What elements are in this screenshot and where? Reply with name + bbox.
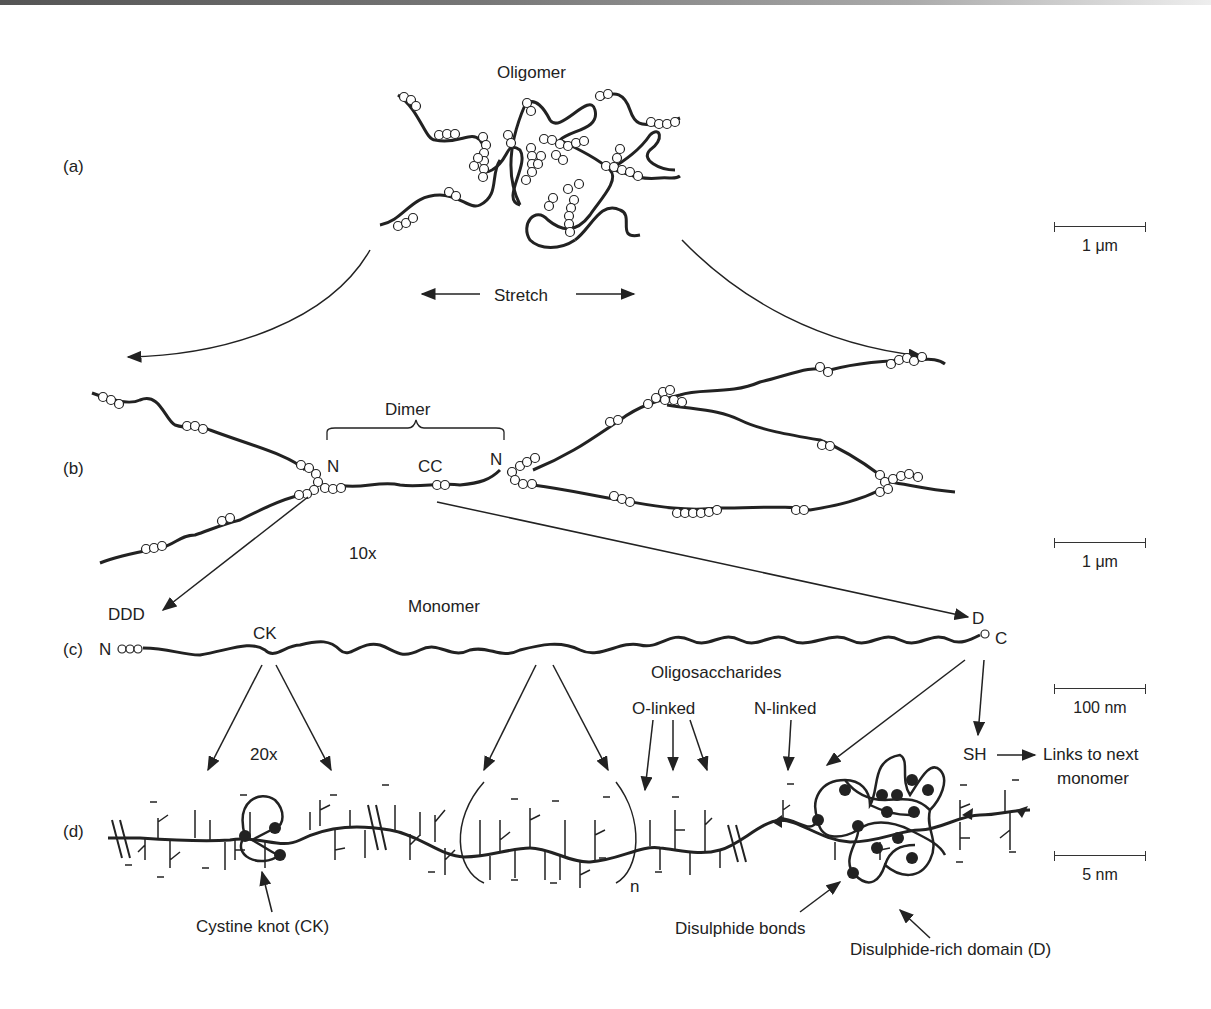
panel-label-c: (c) bbox=[63, 641, 83, 658]
zoom-arrows-b-c bbox=[163, 497, 968, 617]
ddd-label: DDD bbox=[108, 606, 145, 623]
stretch-label: Stretch bbox=[494, 287, 548, 304]
cystine-knot-arrow bbox=[262, 872, 272, 912]
magnification-20x: 20x bbox=[250, 746, 277, 763]
disulphide-domain-arrow bbox=[900, 910, 930, 938]
zoom-arrows-c-d bbox=[208, 660, 1035, 790]
dimer-cc: CC bbox=[418, 458, 443, 475]
chain-break-marks bbox=[112, 805, 746, 862]
mucin-structure-diagram bbox=[0, 0, 1211, 1009]
panel-label-d: (d) bbox=[63, 823, 84, 840]
ck-label: CK bbox=[253, 625, 277, 642]
dimer-title: Dimer bbox=[385, 401, 430, 418]
disulphide-rich-domain bbox=[780, 755, 945, 882]
scale-bar-d: 5 nm bbox=[1054, 851, 1146, 884]
links-label-line2: monomer bbox=[1057, 770, 1129, 787]
cystine-knot-label: Cystine knot (CK) bbox=[196, 918, 329, 935]
monomer-title: Monomer bbox=[408, 598, 480, 615]
links-label-line1: Links to next bbox=[1043, 746, 1138, 763]
scale-value-c: 100 nm bbox=[1054, 699, 1146, 717]
disulphide-bond-dots-d bbox=[812, 774, 934, 879]
scale-value-d: 5 nm bbox=[1054, 866, 1146, 884]
repeat-index-n: n bbox=[630, 878, 639, 895]
monomer-c-terminus: C bbox=[995, 630, 1007, 647]
disulphide-domain-label: Disulphide-rich domain (D) bbox=[850, 941, 1051, 958]
dimer-n-left: N bbox=[327, 458, 339, 475]
d-label: D bbox=[972, 610, 984, 627]
scale-value-a: 1 μm bbox=[1054, 237, 1146, 255]
panel-label-b: (b) bbox=[63, 460, 84, 477]
magnification-10x: 10x bbox=[349, 545, 376, 562]
disulphide-bonds-label: Disulphide bonds bbox=[675, 920, 805, 937]
dimer-n-right: N bbox=[490, 451, 502, 468]
scale-bar-c: 100 nm bbox=[1054, 684, 1146, 717]
panel-label-a: (a) bbox=[63, 158, 84, 175]
scale-bar-b: 1 μm bbox=[1054, 538, 1146, 571]
o-linked-label: O-linked bbox=[632, 700, 695, 717]
oligosaccharides-title: Oligosaccharides bbox=[651, 664, 781, 681]
disulphide-bonds-arrow bbox=[800, 882, 840, 912]
sh-label: SH bbox=[963, 746, 987, 763]
scale-bar-a: 1 μm bbox=[1054, 222, 1146, 255]
monomer-n-terminus: N bbox=[99, 641, 111, 658]
oligomer-title: Oligomer bbox=[497, 64, 566, 81]
dimer-glycan-beads bbox=[99, 353, 927, 554]
n-linked-label: N-linked bbox=[754, 700, 816, 717]
scale-value-b: 1 μm bbox=[1054, 553, 1146, 571]
dimer-bracket bbox=[327, 420, 504, 440]
